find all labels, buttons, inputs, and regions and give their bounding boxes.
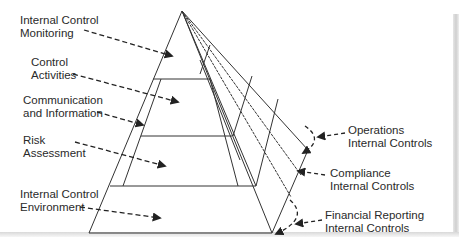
label-line: Compliance xyxy=(330,167,414,180)
label-line: Risk xyxy=(23,134,86,147)
label-line: Internal Controls xyxy=(325,222,424,235)
label-line: Internal Controls xyxy=(348,137,432,150)
label-communication-information: Communication and Information xyxy=(23,94,103,120)
label-compliance-internal-controls: Compliance Internal Controls xyxy=(330,167,414,193)
pyramid-right-faces xyxy=(182,11,308,233)
label-operations-internal-controls: Operations Internal Controls xyxy=(348,124,432,150)
label-line: and Information xyxy=(23,107,103,120)
label-internal-control-environment: Internal Control Environment xyxy=(20,188,99,214)
label-line: Control xyxy=(31,56,76,69)
label-line: Communication xyxy=(23,94,103,107)
pyramid-front-face xyxy=(89,11,272,233)
label-internal-control-monitoring: Internal Control Monitoring xyxy=(20,14,99,40)
label-line: Activities xyxy=(31,69,76,82)
label-line: Internal Control xyxy=(20,188,99,201)
label-line: Monitoring xyxy=(20,27,99,40)
label-line: Environment xyxy=(20,201,99,214)
label-line: Internal Controls xyxy=(330,180,414,193)
label-line: Financial Reporting xyxy=(325,209,424,222)
label-risk-assessment: Risk Assessment xyxy=(23,134,86,160)
label-line: Operations xyxy=(348,124,432,137)
label-line: Internal Control xyxy=(20,14,99,27)
label-line: Assessment xyxy=(23,147,86,160)
label-control-activities: Control Activities xyxy=(31,56,76,82)
label-financial-reporting-internal-controls: Financial Reporting Internal Controls xyxy=(325,209,424,235)
